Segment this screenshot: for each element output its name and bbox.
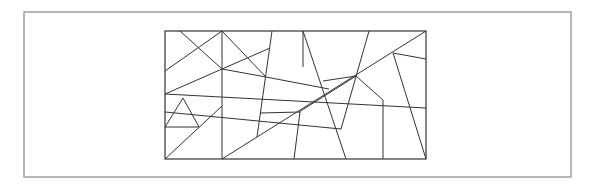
edge-line — [165, 48, 270, 94]
edge-line — [165, 31, 222, 71]
inner-rectangle — [165, 31, 426, 159]
edge-line — [341, 31, 369, 129]
triangulation-diagram — [0, 0, 592, 186]
edge-line — [393, 53, 426, 59]
edge-line — [165, 112, 341, 129]
edge-line — [294, 112, 300, 159]
edge-line — [260, 112, 300, 113]
edge-line — [180, 31, 222, 69]
outer-frame — [24, 12, 571, 177]
triangulation-edges — [165, 31, 426, 159]
edge-line — [222, 31, 426, 159]
edge-line — [356, 76, 383, 100]
edge-line — [183, 98, 199, 127]
edge-line — [165, 94, 426, 108]
